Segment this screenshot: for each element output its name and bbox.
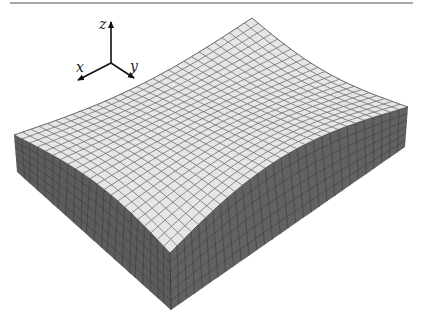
mesh-figure: z x y xyxy=(0,0,422,323)
y-axis-label: y xyxy=(129,58,139,74)
z-axis-label: z xyxy=(98,16,107,32)
axes-triad: z x y xyxy=(76,16,139,80)
x-axis-label: x xyxy=(76,59,84,75)
